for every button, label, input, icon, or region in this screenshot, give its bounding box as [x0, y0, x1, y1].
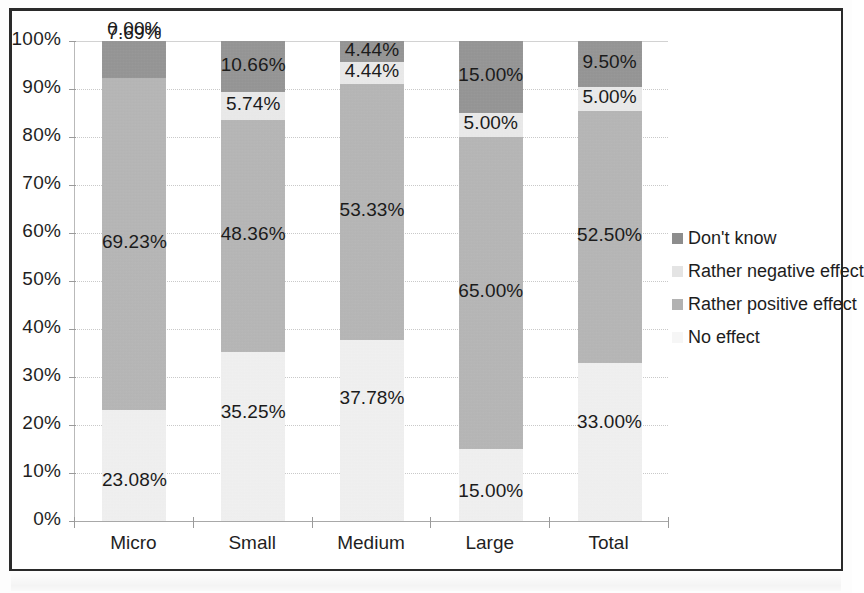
data-label: 9.50% — [540, 51, 680, 73]
bar-segment — [221, 352, 285, 521]
bar-column-medium — [340, 41, 404, 521]
legend-label: Rather positive effect — [688, 294, 857, 315]
legend-label: No effect — [688, 327, 760, 348]
legend-swatch-icon — [672, 233, 683, 244]
scan-grain-overlay — [102, 410, 166, 521]
bar-column-micro — [102, 41, 166, 521]
data-label: 52.50% — [540, 224, 680, 246]
legend-item-no-effect[interactable]: No effect — [672, 321, 847, 354]
y-axis-label: 10% — [0, 460, 61, 482]
scan-grain-overlay — [578, 363, 642, 521]
x-axis-category-total: Total — [549, 532, 668, 554]
legend-label: Don't know — [688, 228, 776, 249]
bar-segment — [578, 363, 642, 521]
y-axis-tick — [69, 329, 76, 330]
bar-segment — [102, 41, 166, 78]
x-axis-category-small: Small — [193, 532, 312, 554]
data-label: 5.00% — [540, 86, 680, 108]
y-axis-tick — [69, 425, 76, 426]
x-axis-tick — [549, 517, 550, 528]
x-axis-category-medium: Medium — [312, 532, 431, 554]
scan-grain-overlay — [340, 340, 404, 521]
y-axis-tick — [69, 377, 76, 378]
scan-grain-overlay — [102, 41, 166, 78]
x-axis-tick — [74, 517, 75, 528]
data-label: 5.00% — [421, 112, 561, 134]
legend-swatch-icon — [672, 332, 683, 343]
bar-column-total — [578, 41, 642, 521]
data-label: 4.44% — [302, 39, 442, 61]
data-label: 53.33% — [302, 199, 442, 221]
y-axis-tick — [69, 89, 76, 90]
legend-swatch-icon — [672, 266, 683, 277]
y-axis-tick — [69, 185, 76, 186]
y-axis-label: 80% — [0, 124, 61, 146]
y-axis-label: 0% — [0, 508, 61, 530]
data-label: 33.00% — [540, 411, 680, 433]
data-label: 5.74% — [183, 93, 323, 115]
data-label: 37.78% — [302, 387, 442, 409]
y-axis-label: 40% — [0, 316, 61, 338]
legend-swatch-icon — [672, 299, 683, 310]
bar-segment — [102, 410, 166, 521]
x-axis-tick — [312, 517, 313, 528]
data-label: 48.36% — [183, 223, 323, 245]
plot-area: 7.69%0.00%69.23%23.08%10.66%5.74%48.36%3… — [74, 41, 668, 521]
x-axis-tick — [668, 517, 669, 528]
x-axis-category-large: Large — [430, 532, 549, 554]
legend-item-don-t-know[interactable]: Don't know — [672, 222, 847, 255]
legend-item-rather-negative-effect[interactable]: Rather negative effect — [672, 255, 847, 288]
y-axis-label: 30% — [0, 364, 61, 386]
data-label: 0.00% — [64, 18, 204, 40]
data-label: 15.00% — [421, 480, 561, 502]
scan-grain-overlay — [221, 352, 285, 521]
y-axis-label: 50% — [0, 268, 61, 290]
legend-item-rather-positive-effect[interactable]: Rather positive effect — [672, 288, 847, 321]
chart-legend: Don't knowRather negative effectRather p… — [672, 222, 847, 354]
y-axis-tick — [69, 281, 76, 282]
x-axis-tick — [193, 517, 194, 528]
y-axis-label: 100% — [0, 28, 61, 50]
x-axis-tick — [430, 517, 431, 528]
bar-segment — [340, 340, 404, 521]
y-axis-label: 70% — [0, 172, 61, 194]
x-axis-category-micro: Micro — [74, 532, 193, 554]
data-label: 65.00% — [421, 280, 561, 302]
legend-label: Rather negative effect — [688, 261, 864, 282]
y-axis-label: 90% — [0, 76, 61, 98]
x-axis-line — [74, 521, 668, 522]
data-label: 23.08% — [64, 469, 204, 491]
y-axis-tick — [69, 137, 76, 138]
y-axis-label: 60% — [0, 220, 61, 242]
y-axis-label: 20% — [0, 412, 61, 434]
